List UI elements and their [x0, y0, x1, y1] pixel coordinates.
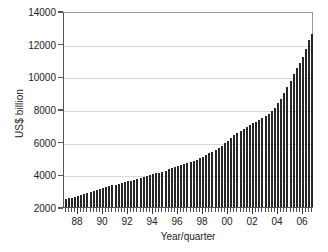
- x-axis-tick-mark: [271, 208, 272, 212]
- x-axis-tick-mark: [133, 208, 134, 212]
- bar: [190, 162, 192, 207]
- bar: [283, 93, 285, 207]
- bar: [205, 155, 207, 207]
- bar: [249, 125, 251, 207]
- bar: [168, 169, 170, 207]
- x-axis-tick-mark: [146, 208, 147, 212]
- x-axis-tick-mark: [86, 208, 87, 212]
- bar: [311, 34, 313, 207]
- x-axis-tick-mark: [211, 208, 212, 212]
- x-axis-tick-mark: [115, 208, 116, 212]
- x-axis-tick-mark: [158, 208, 159, 212]
- plot-area: [63, 12, 313, 208]
- bar: [90, 192, 92, 207]
- bar: [99, 189, 101, 207]
- x-axis-tick-mark: [274, 208, 275, 212]
- x-axis-tick-mark: [136, 208, 137, 212]
- x-axis-tick-mark: [196, 208, 197, 212]
- bar: [68, 198, 70, 207]
- x-axis-tick-mark: [83, 208, 84, 212]
- x-axis-tick-mark: [305, 208, 306, 212]
- x-axis-ticks: [63, 208, 313, 216]
- x-axis-tick-mark: [96, 208, 97, 212]
- bar: [127, 181, 129, 207]
- x-axis-major-tick-mark: [177, 208, 178, 214]
- x-axis-tick-mark: [186, 208, 187, 212]
- bar: [146, 176, 148, 207]
- bar: [149, 175, 151, 207]
- bar: [193, 161, 195, 207]
- x-axis-tick-mark: [124, 208, 125, 212]
- x-axis-tick-mark: [243, 208, 244, 212]
- x-axis-major-tick-mark: [302, 208, 303, 214]
- bar: [186, 163, 188, 207]
- y-axis-tick-label: 8000: [0, 105, 56, 116]
- x-axis-tick-mark: [180, 208, 181, 212]
- bar: [174, 167, 176, 207]
- x-axis-major-tick-mark: [252, 208, 253, 214]
- x-axis-tick-mark: [290, 208, 291, 212]
- bar: [83, 194, 85, 207]
- x-axis-major-tick-mark: [277, 208, 278, 214]
- x-axis-tick-mark: [168, 208, 169, 212]
- bar: [302, 57, 304, 207]
- bar: [305, 49, 307, 207]
- x-axis-tick-mark: [174, 208, 175, 212]
- bar: [130, 181, 132, 207]
- bar: [268, 114, 270, 207]
- x-axis-tick-mark: [140, 208, 141, 212]
- x-axis-tick-mark: [230, 208, 231, 212]
- x-axis-tick-mark: [155, 208, 156, 212]
- bar: [121, 183, 123, 207]
- x-axis-tick-mark: [240, 208, 241, 212]
- x-axis-tick-mark: [296, 208, 297, 212]
- x-axis-major-tick-mark: [152, 208, 153, 214]
- bar: [265, 116, 267, 207]
- x-axis-major-tick-mark: [77, 208, 78, 214]
- x-axis-tick-label: 06: [287, 216, 317, 227]
- bar: [86, 193, 88, 207]
- y-axis-tick-label: 10000: [0, 72, 56, 83]
- x-axis-title: Year/quarter: [63, 231, 313, 242]
- bar: [180, 165, 182, 207]
- x-axis-tick-mark: [68, 208, 69, 212]
- bar: [293, 74, 295, 207]
- bar: [277, 103, 279, 207]
- x-axis-tick-mark: [111, 208, 112, 212]
- x-axis-tick-mark: [308, 208, 309, 212]
- x-axis-major-tick-mark: [102, 208, 103, 214]
- bar: [227, 141, 229, 207]
- x-axis-tick-mark: [149, 208, 150, 212]
- x-axis-tick-mark: [283, 208, 284, 212]
- x-axis-tick-mark: [165, 208, 166, 212]
- x-axis-tick-mark: [199, 208, 200, 212]
- bar: [171, 168, 173, 207]
- x-axis-tick-mark: [215, 208, 216, 212]
- bar: [224, 143, 226, 207]
- x-axis-tick-mark: [118, 208, 119, 212]
- bar: [65, 199, 67, 207]
- bar: [196, 160, 198, 207]
- bar: [199, 158, 201, 207]
- x-axis-major-tick-mark: [227, 208, 228, 214]
- bar: [165, 171, 167, 207]
- bar: [299, 63, 301, 207]
- x-axis-tick-mark: [205, 208, 206, 212]
- y-axis-tick-label: 4000: [0, 170, 56, 181]
- bar: [255, 122, 257, 207]
- x-axis-tick-mark: [249, 208, 250, 212]
- x-axis-tick-mark: [246, 208, 247, 212]
- x-axis-tick-mark: [90, 208, 91, 212]
- bar: [108, 186, 110, 207]
- bar: [136, 179, 138, 207]
- bar: [118, 184, 120, 207]
- bar: [296, 68, 298, 207]
- x-axis-tick-mark: [268, 208, 269, 212]
- bar: [80, 195, 82, 207]
- bar: [218, 148, 220, 207]
- bar: [221, 146, 223, 207]
- bar: [246, 127, 248, 207]
- bar: [208, 153, 210, 207]
- x-axis-tick-mark: [65, 208, 66, 212]
- bar: [230, 138, 232, 207]
